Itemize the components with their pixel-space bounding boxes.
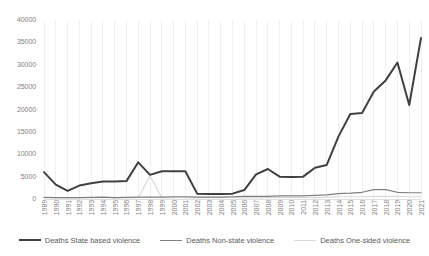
y-axis-tick-label: 0 (32, 195, 36, 203)
x-axis-tick-label: 2021 (418, 200, 425, 215)
y-axis-tick-label: 25000 (17, 83, 36, 91)
legend-item-label: Deaths Non-state violence (186, 236, 274, 245)
x-axis-tick-label: 1995 (111, 200, 118, 215)
y-axis-tick-label: 15000 (17, 128, 36, 136)
x-axis-tick-label: 2004 (217, 200, 224, 215)
legend-line-swatch-icon (19, 239, 41, 241)
x-axis-tick-label: 2016 (359, 200, 366, 215)
plot-area (44, 20, 421, 199)
x-axis-tick-label: 2003 (205, 200, 212, 215)
legend-item[interactable]: Deaths One-sided violence (294, 236, 410, 245)
x-axis: 1989199019911992199319941995199619971998… (44, 200, 421, 228)
y-axis-tick-label: 5000 (21, 173, 36, 181)
series-lines (44, 20, 421, 199)
x-axis-tick-label: 2011 (300, 200, 307, 215)
y-axis-tick-label: 30000 (17, 61, 36, 69)
legend-item[interactable]: Deaths Non-state violence (160, 236, 274, 245)
legend-item[interactable]: Deaths State based violence (19, 236, 140, 245)
x-axis-tick-label: 2013 (323, 200, 330, 215)
x-axis-tick-label: 1993 (88, 200, 95, 215)
x-axis-tick-label: 1998 (147, 200, 154, 215)
x-axis-tick-label: 2012 (311, 200, 318, 215)
legend-line-swatch-icon (160, 240, 182, 241)
x-axis-tick-label: 2015 (347, 200, 354, 215)
y-axis-tick-label: 40000 (17, 16, 36, 24)
y-axis-tick-label: 20000 (17, 106, 36, 114)
legend-item-label: Deaths One-sided violence (320, 236, 410, 245)
x-axis-tick-label: 2005 (229, 200, 236, 215)
x-axis-tick-label: 2006 (241, 200, 248, 215)
x-axis-tick-label: 2008 (264, 200, 271, 215)
x-axis-tick-label: 1992 (76, 200, 83, 215)
x-axis-tick-label: 2009 (276, 200, 283, 215)
legend-line-swatch-icon (294, 240, 316, 241)
x-axis-tick-label: 2000 (170, 200, 177, 215)
x-axis-tick-label: 2014 (335, 200, 342, 215)
x-axis-tick-label: 1994 (99, 200, 106, 215)
x-axis-tick-label: 2001 (182, 200, 189, 215)
x-axis-tick-label: 1999 (158, 200, 165, 215)
x-axis-tick-label: 2020 (406, 200, 413, 215)
x-axis-tick-label: 1989 (41, 200, 48, 215)
x-axis-tick-label: 2017 (370, 200, 377, 215)
legend-item-label: Deaths State based violence (45, 236, 140, 245)
x-axis-tick-label: 1996 (123, 200, 130, 215)
y-axis-tick-label: 10000 (17, 150, 36, 158)
x-axis-tick-label: 1991 (64, 200, 71, 215)
y-axis-tick-label: 35000 (17, 38, 36, 46)
x-axis-tick-label: 1990 (52, 200, 59, 215)
x-axis-tick-label: 1997 (135, 200, 142, 215)
chart-legend: Deaths State based violenceDeaths Non-st… (0, 232, 429, 248)
x-axis-tick-label: 2007 (253, 200, 260, 215)
x-axis-tick-label: 2002 (194, 200, 201, 215)
y-axis: 0500010000150002000025000300003500040000 (0, 20, 40, 199)
x-axis-tick-label: 2010 (288, 200, 295, 215)
line-chart: 0500010000150002000025000300003500040000… (0, 0, 429, 256)
x-axis-tick-label: 2019 (394, 200, 401, 215)
x-axis-tick-label: 2018 (382, 200, 389, 215)
